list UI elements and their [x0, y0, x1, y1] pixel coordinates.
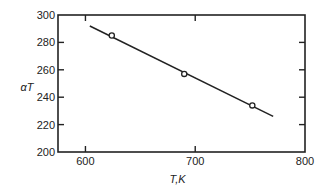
y-axis-label: αT — [21, 81, 35, 93]
y-tick-label: 220 — [37, 119, 55, 131]
y-tick-label: 200 — [37, 146, 55, 158]
fit-line — [90, 26, 273, 116]
data-point — [250, 103, 255, 108]
plot-frame — [58, 15, 305, 152]
data-point — [109, 33, 114, 38]
y-tick-label: 240 — [37, 91, 55, 103]
data-point — [182, 71, 187, 76]
y-tick-label: 280 — [37, 36, 55, 48]
y-tick-label: 300 — [37, 9, 55, 21]
x-tick-label: 600 — [76, 155, 94, 167]
x-tick-label: 700 — [186, 155, 204, 167]
x-axis-label: T,K — [169, 173, 186, 185]
chart: 600700800 200220240260280300 T,K αT — [0, 0, 327, 191]
x-tick-label: 800 — [296, 155, 314, 167]
y-tick-label: 260 — [37, 64, 55, 76]
